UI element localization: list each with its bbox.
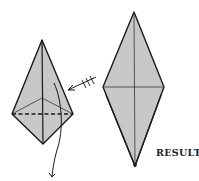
tick-mark [86,78,90,86]
result-label: RESULT [156,147,199,158]
tick-mark [82,80,86,88]
step-figure [12,40,96,177]
bottom-tip [133,163,137,167]
result-figure [103,12,164,167]
origami-diagram: RESULT [0,0,199,181]
diamond-shape [103,12,164,166]
